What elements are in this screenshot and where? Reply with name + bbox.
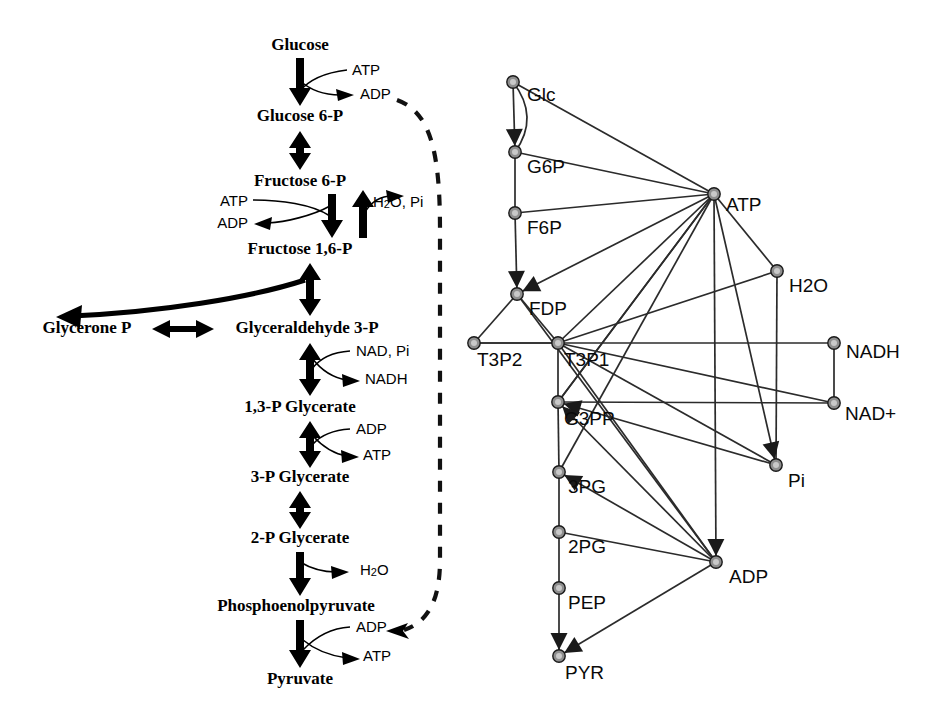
network-node-label-nadplus: NAD+ bbox=[845, 403, 896, 424]
network-node-core-g6p bbox=[512, 149, 518, 155]
network-node-core-f6p bbox=[512, 210, 518, 216]
line-atp-in-pfk bbox=[253, 200, 330, 216]
arrowhead-atp-pyk bbox=[342, 652, 360, 665]
network-arrowhead-pep-to-pyr bbox=[551, 633, 568, 650]
network-node-label-g3pp: G3PP bbox=[564, 408, 615, 429]
cofactor-label-h2o-enolase: H2O bbox=[360, 561, 389, 578]
arrowhead-atp-pgk bbox=[341, 450, 359, 463]
network-node-core-nadplus bbox=[831, 400, 837, 406]
metabolite-label-dhap: Glycerone P bbox=[43, 318, 132, 337]
glycolysis-pathway-panel: Glucose Glucose 6-P Fructose 6-P Fructos… bbox=[0, 0, 470, 718]
network-edge-nad+-to-g3pp bbox=[558, 402, 834, 403]
network-node-core-pi bbox=[773, 462, 779, 468]
metabolite-label-fdp: Fructose 1,6-P bbox=[248, 239, 353, 258]
network-node-core-atp bbox=[711, 191, 717, 197]
adp-feedback-loop-path bbox=[397, 100, 440, 630]
cofactor-label-atp-pgk: ATP bbox=[363, 446, 391, 463]
line-h2o-out-enolase bbox=[300, 562, 336, 572]
network-edge-f6p-to-atp bbox=[515, 194, 714, 213]
network-edge-fdp-to-adp bbox=[517, 294, 716, 562]
network-node-core-pep bbox=[556, 585, 562, 591]
metabolite-label-g6p: Glucose 6-P bbox=[257, 106, 343, 125]
cofactor-label-adp-pgk: ADP bbox=[356, 420, 387, 437]
metabolite-label-pep: Phosphoenolpyruvate bbox=[217, 596, 375, 615]
network-node-label-pi: Pi bbox=[788, 470, 805, 491]
line-nadh-out bbox=[312, 358, 347, 380]
network-node-core-nadh bbox=[831, 340, 837, 346]
network-node-label-f6p: F6P bbox=[527, 217, 562, 238]
network-node-core-g3pp bbox=[555, 399, 561, 405]
network-node-core-fdp bbox=[514, 291, 520, 297]
network-edge-atp-to-fdp bbox=[517, 194, 714, 294]
arrow-glucose-to-g6p bbox=[289, 58, 311, 106]
network-label-layer: GlcG6PF6PFDPT3P2T3P1G3PP3PG2PGPEPPYRATPH… bbox=[477, 84, 900, 683]
network-node-core-t3p1 bbox=[555, 340, 561, 346]
network-node-label-nadh: NADH bbox=[846, 341, 900, 362]
cofactor-label-atp-hexokinase: ATP bbox=[352, 61, 380, 78]
metabolite-label-pyruvate: Pyruvate bbox=[267, 669, 334, 688]
network-node-label-adp: ADP bbox=[729, 566, 768, 587]
network-node-label-pyr: PYR bbox=[565, 662, 604, 683]
cofactor-label-nad-pi-gapdh: NAD, Pi bbox=[356, 342, 409, 359]
network-edge-fdp-to-t3p2 bbox=[474, 294, 517, 343]
metabolite-label-glucose: Glucose bbox=[271, 35, 329, 54]
cofactor-label-adp-pfk: ADP bbox=[217, 214, 248, 231]
network-node-label-t3p1: T3P1 bbox=[564, 349, 609, 370]
arrow-fdp-gap-down bbox=[299, 288, 321, 316]
network-edge-h2o-to-pi bbox=[776, 271, 777, 465]
arrow-gap-bpg-down bbox=[299, 368, 321, 396]
network-svg: GlcG6PF6PFDPT3P2T3P1G3PP3PG2PGPEPPYRATPH… bbox=[460, 0, 937, 718]
network-node-core-2pg bbox=[556, 529, 562, 535]
cofactor-label-nadh-gapdh: NADH bbox=[365, 370, 408, 387]
arrowhead-adp-hexokinase bbox=[336, 89, 354, 101]
metabolite-label-2pg: 2-P Glycerate bbox=[251, 528, 350, 547]
network-node-label-pep: PEP bbox=[568, 592, 606, 613]
network-node-core-glc bbox=[510, 79, 516, 85]
network-node-label-2pg: 2PG bbox=[568, 536, 606, 557]
metabolite-label-3pg: 3-P Glycerate bbox=[251, 467, 350, 486]
network-arrowhead-adp-to-pyr bbox=[564, 637, 583, 653]
network-node-core-h2o bbox=[774, 268, 780, 274]
arrow-dhap-gap-right bbox=[170, 320, 214, 338]
network-node-label-t3p2: T3P2 bbox=[477, 349, 522, 370]
network-edge-g3pp-to-3pg bbox=[558, 402, 559, 472]
arrow-f6p-to-fdp bbox=[321, 194, 343, 238]
line-adp-out-pfk bbox=[268, 206, 330, 223]
arrow-fdp-to-f6p bbox=[352, 190, 374, 238]
network-node-label-g6p: G6P bbox=[527, 156, 565, 177]
network-edge-g3pp-to-atp bbox=[558, 194, 714, 402]
pathway-svg: Glucose Glucose 6-P Fructose 6-P Fructos… bbox=[0, 0, 470, 718]
metabolite-network-panel: GlcG6PF6PFDPT3P2T3P1G3PP3PG2PGPEPPYRATPH… bbox=[460, 0, 937, 718]
aldolase-branch-curve bbox=[72, 280, 305, 316]
network-node-core-adp bbox=[713, 559, 719, 565]
arrow-2pg-to-pep bbox=[289, 552, 311, 596]
arrowhead-nadh bbox=[342, 374, 360, 387]
metabolite-label-f6p: Fructose 6-P bbox=[254, 171, 346, 190]
network-edge-atp-to-3pg bbox=[559, 194, 714, 472]
network-node-core-t3p2 bbox=[471, 340, 477, 346]
network-node-core-pyr bbox=[556, 653, 562, 659]
arrowhead-h2o-enolase bbox=[331, 566, 349, 579]
figure-root: Glucose Glucose 6-P Fructose 6-P Fructos… bbox=[0, 0, 937, 718]
network-edge-atp-to-t3p1 bbox=[558, 194, 714, 343]
network-node-label-fdp: FDP bbox=[529, 298, 567, 319]
network-node-core-3pg bbox=[556, 469, 562, 475]
cofactor-label-atp-pfk: ATP bbox=[220, 192, 248, 209]
cofactor-label-atp-pyk: ATP bbox=[363, 647, 391, 664]
cofactor-label-adp-hexokinase: ADP bbox=[360, 85, 391, 102]
cofactor-label-adp-pyk: ADP bbox=[356, 618, 387, 635]
metabolite-label-bpg: 1,3-P Glycerate bbox=[244, 397, 356, 416]
network-node-label-h2o: H2O bbox=[789, 275, 828, 296]
network-node-label-atp: ATP bbox=[726, 194, 762, 215]
arrow-fdp-gap-up bbox=[299, 263, 321, 292]
network-node-label-3pg: 3PG bbox=[568, 476, 606, 497]
network-edge-h2o-to-t3p1 bbox=[558, 271, 777, 343]
metabolite-label-gap: Glyceraldehyde 3-P bbox=[235, 318, 378, 337]
cofactor-label-h2o-pi-fbpase: H2O, Pi bbox=[373, 193, 423, 210]
line-adp-in-pyk bbox=[303, 627, 350, 650]
arrowhead-adp-pfk bbox=[254, 217, 272, 230]
network-arrowhead-f6p-to-fdp bbox=[508, 271, 525, 288]
arrow-bpg-3pg-down bbox=[299, 442, 321, 468]
network-node-label-glc: Glc bbox=[527, 84, 556, 105]
network-node-layer bbox=[468, 76, 840, 662]
